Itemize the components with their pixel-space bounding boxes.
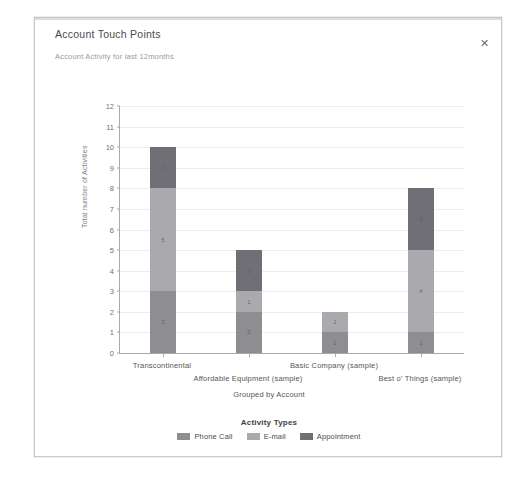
plot-area: 012345678910111225321211341 (119, 106, 464, 354)
y-tick-mark (117, 188, 120, 189)
y-tick-label: 12 (106, 102, 114, 111)
bar-segment[interactable]: 3 (408, 188, 434, 250)
x-tick-mark (249, 353, 250, 357)
bar-segment[interactable]: 1 (236, 291, 262, 312)
x-tick-mark (421, 353, 422, 357)
y-tick-label: 1 (110, 328, 114, 337)
bar-segment-label: 5 (150, 237, 176, 243)
dialog-top-border (35, 18, 501, 20)
bar-segment-label: 3 (150, 319, 176, 325)
legend-swatch (300, 433, 313, 440)
y-tick-label: 8 (110, 184, 114, 193)
legend-item[interactable]: Phone Call (177, 432, 232, 441)
x-tick-mark (335, 353, 336, 357)
screenshot-root: Account Touch Points ✕ Account Activity … (0, 0, 520, 477)
bar-segment[interactable]: 5 (150, 188, 176, 291)
y-tick-mark (117, 332, 120, 333)
account-touch-points-dialog: Account Touch Points ✕ Account Activity … (34, 17, 502, 457)
x-tick-mark (163, 353, 164, 357)
chart-legend: Phone CallE-mailAppointment (35, 432, 503, 441)
y-tick-label: 6 (110, 225, 114, 234)
y-tick-mark (117, 291, 120, 292)
bar-stack[interactable]: 212 (236, 250, 262, 353)
bar-segment-label: 1 (322, 340, 348, 346)
y-tick-label: 2 (110, 307, 114, 316)
background-clipped-text (0, 0, 520, 14)
gridline (120, 106, 464, 107)
gridline (120, 127, 464, 128)
y-tick-mark (117, 106, 120, 107)
y-tick-label: 11 (106, 122, 114, 131)
legend-swatch (177, 433, 190, 440)
bar-segment[interactable]: 1 (408, 332, 434, 353)
bar-segment[interactable]: 3 (150, 291, 176, 353)
x-axis-label: Basic Company (sample) (290, 361, 378, 370)
legend-title: Activity Types (35, 418, 503, 427)
dialog-subtitle: Account Activity for last 12months (55, 52, 174, 61)
bar-segment[interactable]: 2 (150, 147, 176, 188)
legend-item[interactable]: Appointment (300, 432, 361, 441)
legend-label: E-mail (264, 432, 286, 441)
bar-segment[interactable]: 2 (236, 312, 262, 353)
y-tick-label: 3 (110, 287, 114, 296)
bar-segment[interactable]: 2 (236, 250, 262, 291)
bar-segment-label: 2 (236, 329, 262, 335)
x-axis-title: Grouped by Account (35, 390, 503, 399)
bar-segment-label: 1 (322, 319, 348, 325)
y-axis-title: Total number of Activities (81, 145, 88, 228)
y-tick-label: 9 (110, 163, 114, 172)
x-axis-label: Best o' Things (sample) (378, 374, 461, 383)
bar-stack[interactable]: 11 (322, 312, 348, 353)
x-axis-label: Affordable Equipment (sample) (193, 374, 302, 383)
bar-segment[interactable]: 1 (322, 312, 348, 333)
y-tick-mark (117, 353, 120, 354)
bar-stack[interactable]: 341 (408, 188, 434, 353)
y-tick-mark (117, 250, 120, 251)
y-tick-mark (117, 311, 120, 312)
legend-label: Phone Call (194, 432, 232, 441)
y-tick-mark (117, 270, 120, 271)
bar-segment[interactable]: 4 (408, 250, 434, 332)
bar-segment-label: 2 (236, 268, 262, 274)
y-tick-label: 5 (110, 246, 114, 255)
y-tick-mark (117, 229, 120, 230)
bar-segment-label: 2 (150, 165, 176, 171)
bar-segment-label: 1 (408, 340, 434, 346)
y-tick-mark (117, 208, 120, 209)
bar-segment-label: 3 (408, 216, 434, 222)
close-icon[interactable]: ✕ (477, 36, 491, 50)
legend-item[interactable]: E-mail (247, 432, 286, 441)
y-tick-label: 4 (110, 266, 114, 275)
y-tick-mark (117, 147, 120, 148)
y-tick-mark (117, 126, 120, 127)
legend-swatch (247, 433, 260, 440)
bar-segment-label: 4 (408, 288, 434, 294)
y-tick-label: 10 (106, 143, 114, 152)
bar-stack[interactable]: 253 (150, 147, 176, 353)
bar-segment[interactable]: 1 (322, 332, 348, 353)
y-tick-label: 7 (110, 204, 114, 213)
y-tick-label: 0 (110, 349, 114, 358)
page-title: Account Touch Points (55, 28, 161, 40)
bar-segment-label: 1 (236, 299, 262, 305)
y-tick-mark (117, 167, 120, 168)
stacked-bar-chart: Total number of Activities 0123456789101… (35, 78, 503, 456)
legend-label: Appointment (317, 432, 361, 441)
x-axis-label: Transcontinental (133, 361, 191, 370)
